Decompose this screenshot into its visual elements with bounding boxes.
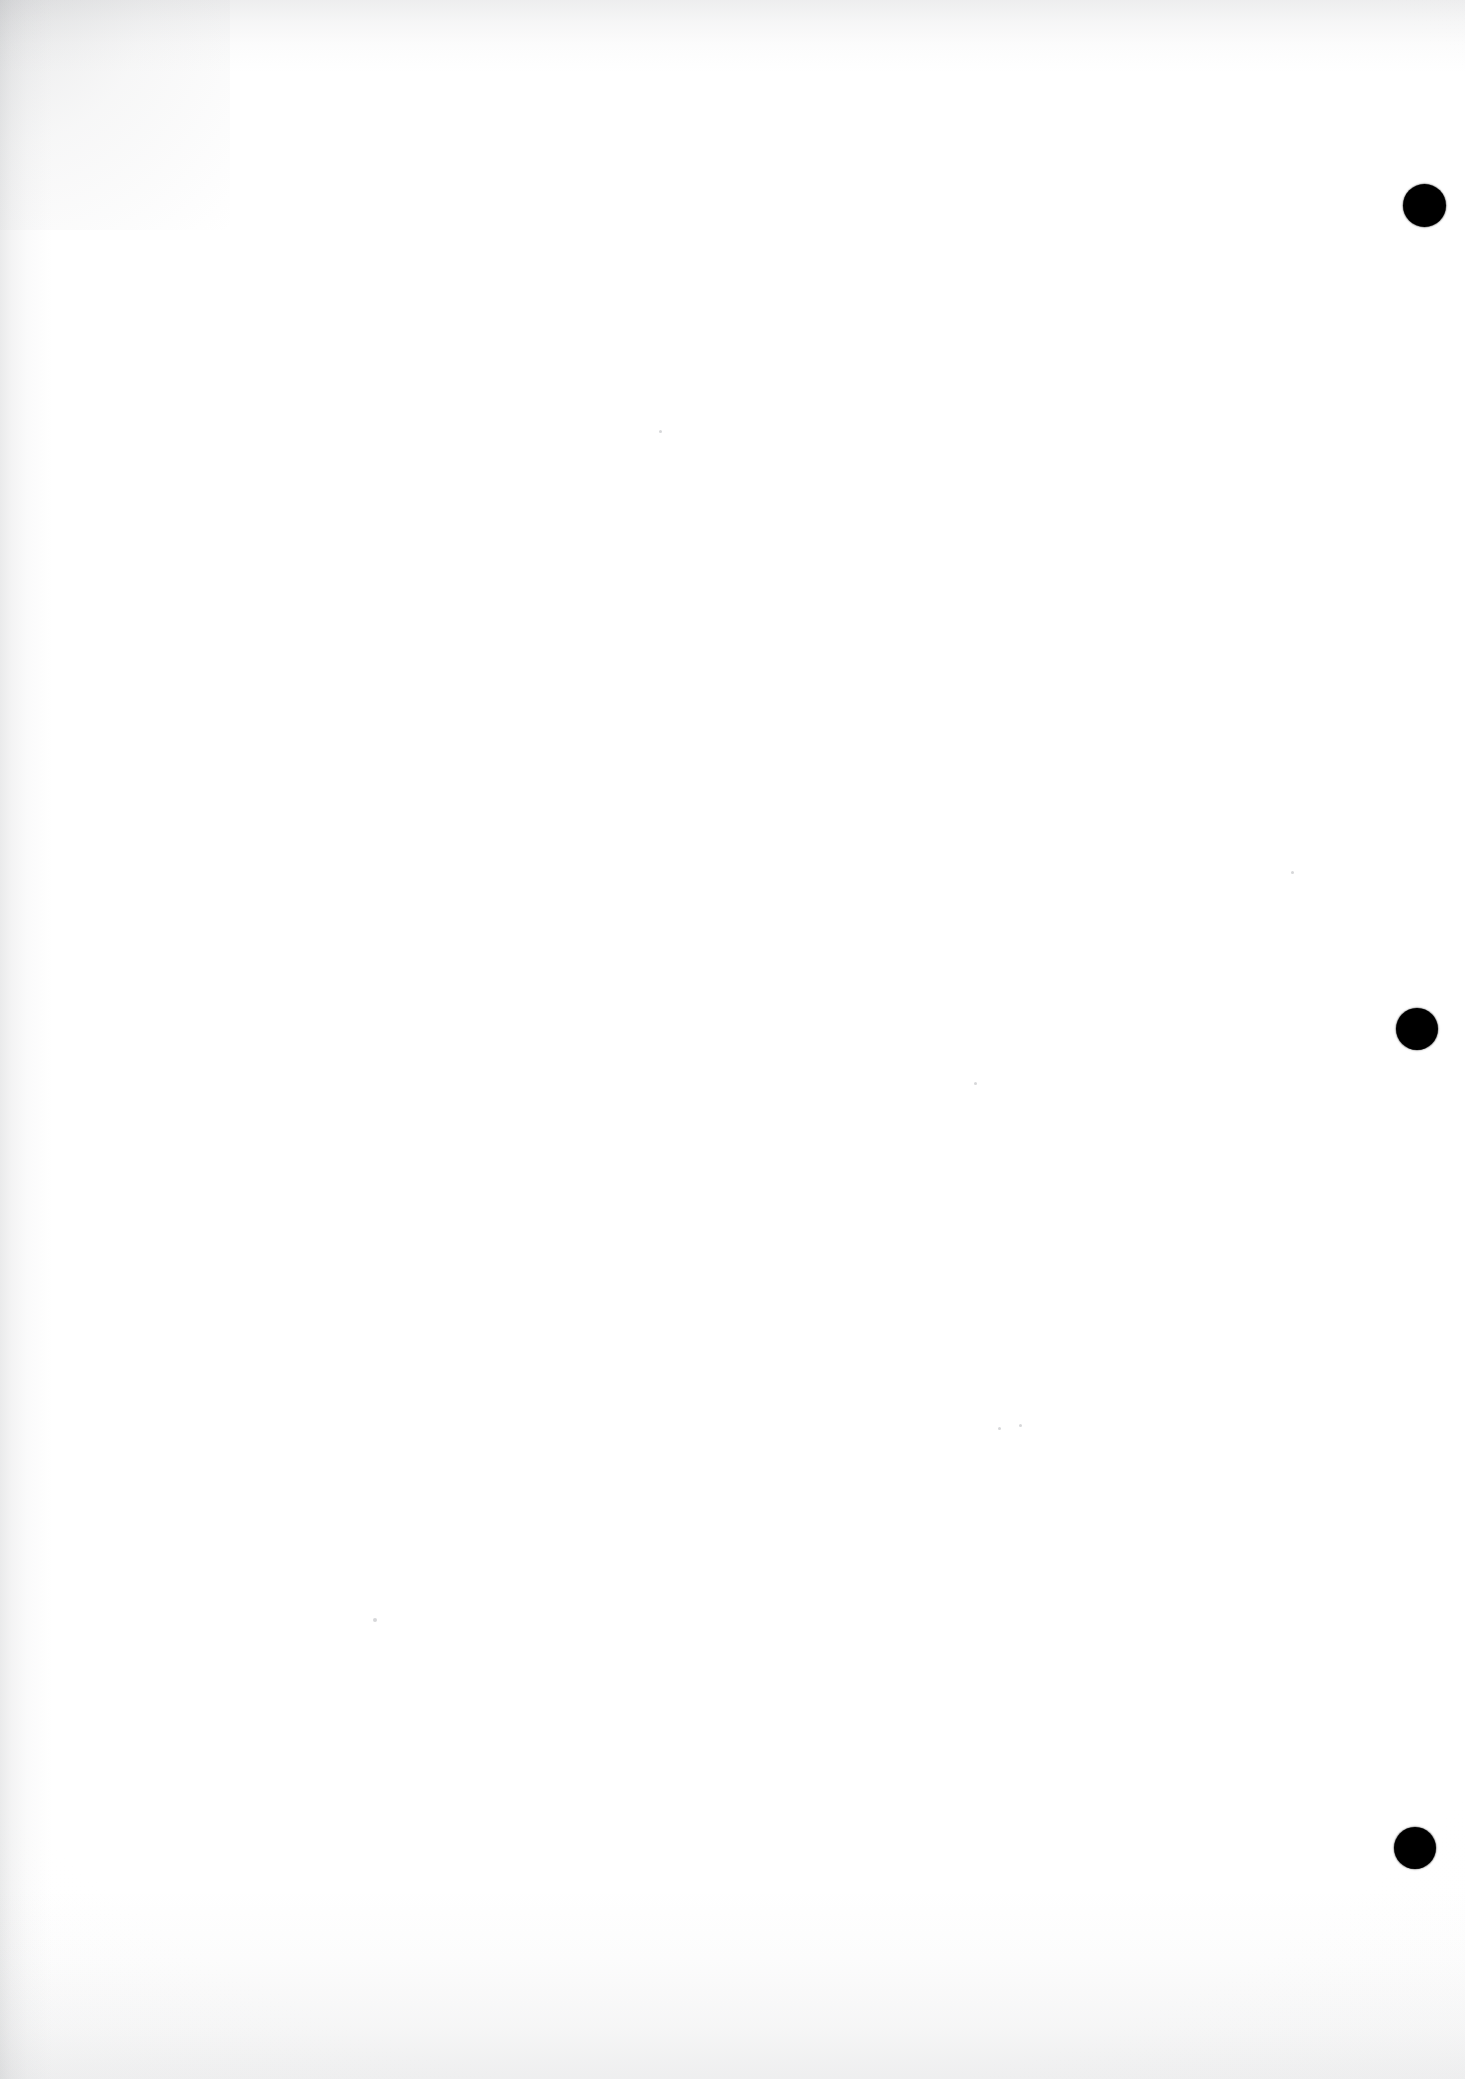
registration-dot-top [1403, 184, 1446, 227]
paper-background [0, 0, 1465, 2079]
scan-edge-shadow-corner [0, 0, 230, 230]
dust-speck [1291, 871, 1294, 874]
dust-speck [659, 430, 662, 433]
dust-speck [373, 1618, 377, 1622]
registration-dot-middle [1396, 1008, 1438, 1050]
scan-edge-shadow-top [0, 0, 1465, 74]
scan-edge-shadow-left [0, 0, 52, 2079]
scanned-page [0, 0, 1465, 2079]
scan-edge-shadow-bottom [0, 1889, 1465, 2079]
dust-speck [998, 1427, 1001, 1430]
dust-speck [1019, 1424, 1022, 1427]
registration-dot-bottom [1394, 1827, 1436, 1869]
dust-speck [974, 1082, 977, 1085]
